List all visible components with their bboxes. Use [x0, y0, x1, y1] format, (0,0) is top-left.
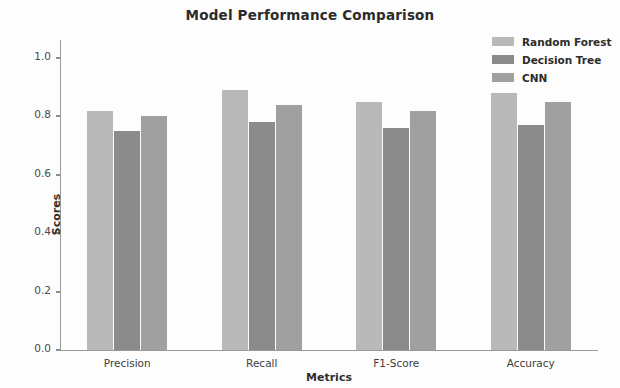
legend-swatch-icon [492, 73, 514, 82]
y-tick: 1.0 [0, 58, 60, 59]
x-tick-label: F1-Score [336, 357, 456, 369]
bar [141, 116, 167, 350]
y-tick-label: 1.0 [34, 50, 51, 62]
legend-item[interactable]: Random Forest [492, 34, 616, 49]
bar [114, 131, 140, 350]
y-tick: 0.2 [0, 292, 60, 293]
bar [491, 93, 517, 350]
x-tick-label: Precision [67, 357, 187, 369]
bar [518, 125, 544, 350]
x-axis-label: Metrics [60, 371, 598, 384]
bar-chart-figure: Model Performance Comparison 0.00.20.40.… [0, 0, 620, 388]
y-tick: 0.8 [0, 116, 60, 117]
y-tick-label: 0.0 [34, 342, 51, 354]
y-tick-label: 0.8 [34, 108, 51, 120]
y-tick: 0.0 [0, 350, 60, 351]
x-tick-label: Recall [202, 357, 322, 369]
bar [356, 102, 382, 350]
x-tick-label: Accuracy [471, 357, 591, 369]
bar [249, 122, 275, 350]
bar [545, 102, 571, 350]
bar [87, 111, 113, 350]
y-tick-label: 0.4 [34, 225, 51, 237]
chart-title: Model Performance Comparison [0, 7, 620, 23]
x-axis-line [60, 350, 598, 351]
legend-swatch-icon [492, 37, 514, 46]
bar [383, 128, 409, 350]
legend-label: CNN [522, 72, 547, 84]
legend-swatch-icon [492, 55, 514, 64]
legend-label: Decision Tree [522, 54, 601, 66]
legend-item[interactable]: CNN [492, 70, 616, 85]
bar [276, 105, 302, 350]
legend-label: Random Forest [522, 36, 612, 48]
y-tick: 0.6 [0, 175, 60, 176]
y-tick-label: 0.6 [34, 167, 51, 179]
chart-legend: Random ForestDecision TreeCNN [492, 34, 616, 88]
bar [222, 90, 248, 350]
y-axis-label: Scores [50, 194, 63, 235]
bar [410, 111, 436, 350]
legend-item[interactable]: Decision Tree [492, 52, 616, 67]
y-tick-label: 0.2 [34, 284, 51, 296]
